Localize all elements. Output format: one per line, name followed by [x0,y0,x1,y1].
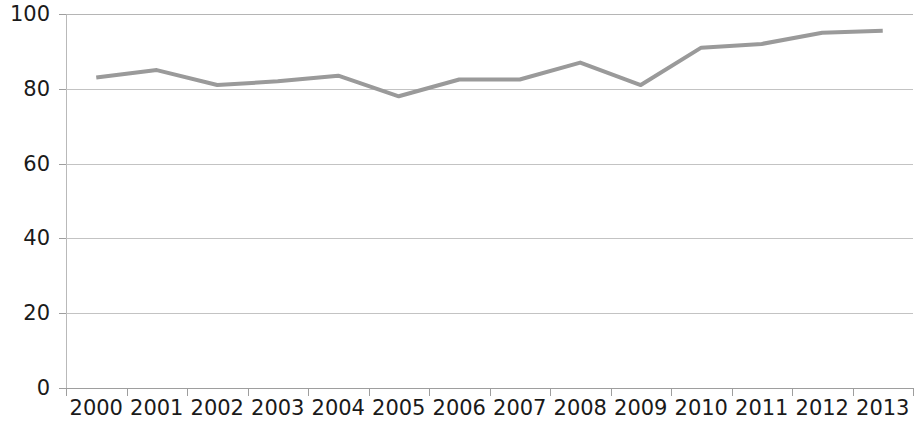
x-axis-tick [550,388,551,396]
y-axis-tick [59,89,66,90]
x-axis-tick [127,388,128,396]
y-axis-tick [59,238,66,239]
y-axis-tick [59,164,66,165]
x-axis-tick [792,388,793,396]
x-axis-tick-label: 2013 [856,396,909,420]
x-axis-tick-label: 2007 [493,396,546,420]
y-axis-tick-label: 0 [37,376,50,400]
x-axis-tick-label: 2012 [796,396,849,420]
y-axis-tick [59,14,66,15]
y-axis-tick-label: 80 [23,77,50,101]
x-axis-tick [429,388,430,396]
x-axis-tick [853,388,854,396]
x-axis-tick-label: 2009 [614,396,667,420]
x-axis-tick-label: 2010 [675,396,728,420]
x-axis-tick-label: 2004 [312,396,365,420]
y-axis-tick-label: 60 [23,152,50,176]
x-axis-tick-label: 2006 [433,396,486,420]
y-axis-tick [59,388,66,389]
x-axis-tick [66,388,67,396]
x-axis-tick-label: 2002 [191,396,244,420]
x-axis-tick [913,388,914,396]
y-axis-tick-label: 100 [10,2,50,26]
y-axis-tick [59,313,66,314]
x-axis-tick-label: 2001 [130,396,183,420]
data-series-line [66,14,913,388]
line-chart: 100 80 60 40 20 0 2000200120022003200420… [0,0,920,425]
x-axis-tick [671,388,672,396]
x-axis-tick [732,388,733,396]
x-axis-tick [248,388,249,396]
x-axis-tick-label: 2003 [251,396,304,420]
x-axis-tick [187,388,188,396]
x-axis-tick-labels: 2000200120022003200420052006200720082009… [66,396,913,425]
x-axis-tick [308,388,309,396]
plot-area [66,14,913,388]
x-axis-tick-label: 2008 [554,396,607,420]
x-axis-tick-label: 2011 [735,396,788,420]
x-axis-tick-label: 2005 [372,396,425,420]
y-axis-tick-label: 20 [23,301,50,325]
y-axis-tick-labels: 100 80 60 40 20 0 [0,0,58,425]
x-axis-tick [369,388,370,396]
x-axis-tick [490,388,491,396]
y-axis-tick-label: 40 [23,226,50,250]
x-axis-tick [611,388,612,396]
x-axis-tick-label: 2000 [70,396,123,420]
